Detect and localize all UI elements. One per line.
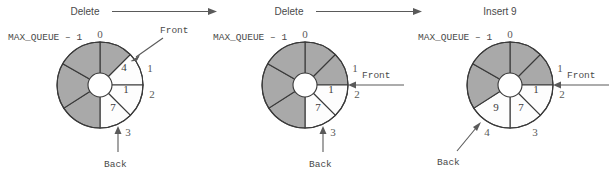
operation-arrow-2 xyxy=(316,8,422,15)
panel-3-value-7: 7 xyxy=(518,101,524,113)
panel-1-front-pointer xyxy=(131,38,164,62)
queue-panel-1: MAX_QUEUE – 1 4 1 7 0 1 2 3 xyxy=(8,25,189,170)
panel-3-max-queue-label: MAX_QUEUE – 1 xyxy=(418,32,492,43)
panel-1-index-1: 1 xyxy=(147,62,153,74)
panel-2-hub xyxy=(293,73,317,97)
panel-3-index-4: 4 xyxy=(484,126,490,138)
panel-2-value-1: 1 xyxy=(328,83,334,95)
panel-2-back-label: Back xyxy=(309,159,332,170)
panel-1-index-0: 0 xyxy=(97,28,103,40)
panel-1-back-label: Back xyxy=(104,159,127,170)
panel-2-front-label: Front xyxy=(362,70,391,81)
panel-3-index-2: 2 xyxy=(559,88,565,100)
panel-2-value-7: 7 xyxy=(315,101,321,113)
panel-1-index-3: 3 xyxy=(125,126,131,138)
panel-1-index-2: 2 xyxy=(149,88,155,100)
panel-3-hub xyxy=(498,73,522,97)
panel-3-back-label: Back xyxy=(437,157,460,168)
panel-3-value-1: 1 xyxy=(533,83,539,95)
queue-panel-2: MAX_QUEUE – 1 1 7 0 1 2 3 Front xyxy=(213,28,404,170)
panel-3-front-label: Front xyxy=(567,70,596,81)
panel-2-wheel xyxy=(262,42,348,128)
panel-2-back-pointer xyxy=(320,126,327,152)
figure-canvas: Delete Delete Insert 9 MAX_QUEUE – 1 xyxy=(0,0,615,172)
panel-3-index-0: 0 xyxy=(507,28,513,40)
operation-arrow-1 xyxy=(112,8,217,15)
panel-2-index-3: 3 xyxy=(330,126,336,138)
panel-3-back-pointer xyxy=(457,122,481,151)
panel-1-value-4: 4 xyxy=(121,61,127,73)
circular-queue-diagram: Delete Delete Insert 9 MAX_QUEUE – 1 xyxy=(0,0,615,172)
panel-1-front-label: Front xyxy=(160,25,189,36)
operation-label-delete-2: Delete xyxy=(275,6,304,17)
operation-label-insert-9: Insert 9 xyxy=(483,6,517,17)
panel-1-wheel xyxy=(57,42,143,128)
panel-2-index-0: 0 xyxy=(302,28,308,40)
queue-panel-3: MAX_QUEUE – 1 1 7 9 0 1 2 3 4 Front xyxy=(418,28,609,168)
panel-1-value-1: 1 xyxy=(123,83,129,95)
panel-1-max-queue-label: MAX_QUEUE – 1 xyxy=(8,32,82,43)
panel-1-back-pointer xyxy=(115,126,122,152)
panel-3-wheel xyxy=(467,42,553,128)
operation-row: Delete Delete Insert 9 xyxy=(71,6,518,17)
panel-2-index-2: 2 xyxy=(354,88,360,100)
panel-2-max-queue-label: MAX_QUEUE – 1 xyxy=(213,32,287,43)
panel-3-index-1: 1 xyxy=(557,62,563,74)
panel-3-value-9: 9 xyxy=(493,101,499,113)
operation-label-delete-1: Delete xyxy=(71,6,100,17)
panel-1-value-7: 7 xyxy=(110,101,116,113)
panel-2-index-1: 1 xyxy=(352,62,358,74)
panel-3-index-3: 3 xyxy=(532,126,538,138)
panel-1-hub xyxy=(88,73,112,97)
